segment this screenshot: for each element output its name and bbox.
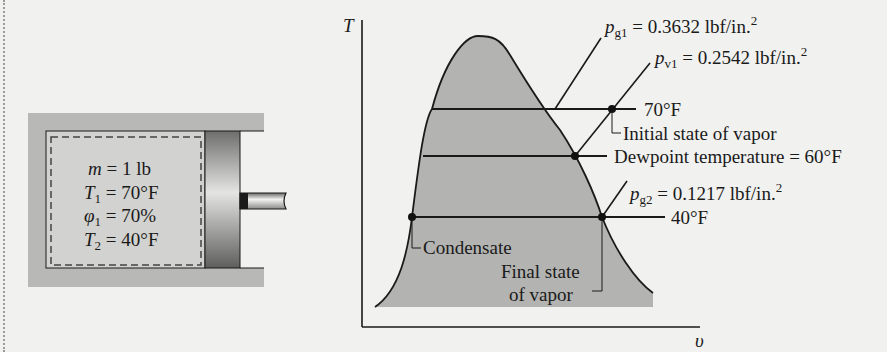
final-state-label-1: Final state xyxy=(501,261,580,282)
t70-label: 70°F xyxy=(644,99,681,120)
t-v-diagram: T υ pg1 = 0.3632 lbf/in.2 pv1 = 0.2542 l… xyxy=(343,13,842,351)
piston-cylinder: m = 1 lb T1 = 70°F φ1 = 70% T2 = 40°F xyxy=(28,113,286,287)
pg2-line xyxy=(602,181,627,217)
t60-label: Dewpoint temperature = 60°F xyxy=(614,146,842,167)
t40-label: 40°F xyxy=(671,207,708,228)
pg1-label: pg1 = 0.3632 lbf/in.2 xyxy=(603,13,757,40)
initial-state-label: Initial state of vapor xyxy=(623,123,777,144)
dewpoint-point xyxy=(571,152,579,160)
condensate-label: Condensate xyxy=(423,237,512,258)
initial-state-point xyxy=(608,105,616,113)
initial-state-leader xyxy=(612,113,621,133)
pg1-line xyxy=(555,38,601,109)
condensate-point xyxy=(408,213,416,221)
final-state-label-2: of vapor xyxy=(509,284,574,305)
piston xyxy=(205,131,240,268)
pg2-label: pg2 = 0.1217 lbf/in.2 xyxy=(628,180,782,207)
figure: m = 1 lb T1 = 70°F φ1 = 70% T2 = 40°F T … xyxy=(0,0,887,352)
final-state-point xyxy=(598,213,606,221)
pv1-label: pv1 = 0.2542 lbf/in.2 xyxy=(653,44,807,71)
v-axis-label: υ xyxy=(695,330,704,351)
mass-label: m = 1 lb xyxy=(88,158,151,179)
t-axis-label: T xyxy=(343,15,355,36)
